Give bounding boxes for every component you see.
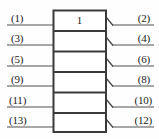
pin-label-right-8: (8)	[138, 74, 150, 85]
pin-label-left-3: (3)	[11, 33, 23, 44]
pin-label-right-6: (6)	[138, 54, 150, 65]
diagonal-connector-arrow-3	[106, 58, 113, 67]
pin-label-right-12: (12)	[134, 115, 152, 126]
pin-label-right-10: (10)	[134, 95, 152, 106]
pin-label-right-4: (4)	[138, 33, 150, 44]
pin-label-left-13: (13)	[9, 115, 27, 126]
diagonal-connector-arrow-5	[106, 99, 113, 108]
pin-label-left-9: (9)	[11, 74, 23, 85]
connector-diagram: 1 (1) (3) (5) (9) (11) (13) (2) (4) (6) …	[0, 0, 159, 139]
diagonal-connector-arrow-2	[106, 37, 113, 46]
diagonal-connector-arrow-4	[106, 78, 113, 87]
diagonal-connector-arrow-6	[106, 119, 113, 128]
pin-label-left-5: (5)	[11, 54, 23, 65]
pin-label-left-11: (11)	[9, 95, 26, 106]
pin-label-right-2: (2)	[138, 13, 150, 24]
diagonal-connector-arrow-group	[106, 17, 113, 128]
block-number-label: 1	[53, 15, 106, 26]
pin-label-left-1: (1)	[11, 13, 23, 24]
diagonal-connector-arrow-1	[106, 17, 113, 26]
